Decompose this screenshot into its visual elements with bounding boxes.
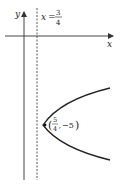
svg-text:4: 4 <box>56 19 61 27</box>
svg-text:3: 3 <box>56 9 60 17</box>
svg-text:4: 4 <box>53 125 57 133</box>
parabola-diagram: y x x = 3 4 ( 5 4 , −5 ) <box>0 0 120 188</box>
svg-text:−5: −5 <box>62 121 74 130</box>
focus-point <box>44 124 47 127</box>
svg-text:x: x <box>41 12 46 22</box>
svg-text:5: 5 <box>53 116 57 124</box>
x-axis-label: x <box>107 39 112 49</box>
svg-text:,: , <box>59 121 62 130</box>
y-axis-label: y <box>14 9 21 19</box>
directrix-label: x = 3 4 <box>41 9 62 27</box>
svg-text:=: = <box>48 12 56 22</box>
svg-text:): ) <box>75 119 79 132</box>
svg-text:(: ( <box>48 119 52 132</box>
focus-label: ( 5 4 , −5 ) <box>48 116 79 133</box>
